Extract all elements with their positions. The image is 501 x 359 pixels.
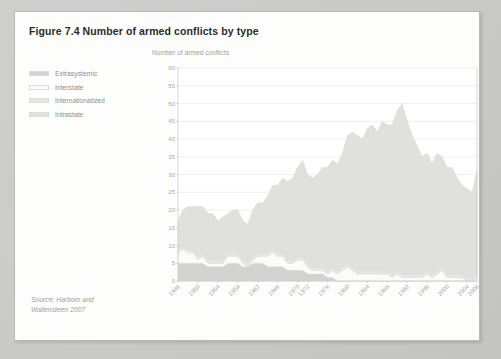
x-axis-tick-label: 1988 (377, 283, 391, 297)
x-axis-tick-label: 2000 (437, 283, 451, 297)
chart-plot-area: 0510152025303540455055601946195019541958… (162, 59, 483, 320)
source-line-2: Wallensteen 2007 (31, 305, 136, 315)
x-axis-tick-label: 1980 (337, 283, 351, 297)
x-axis-tick-label: 1984 (357, 283, 371, 297)
legend-swatch-icon (29, 71, 49, 76)
y-axis-tick-label: 45 (168, 118, 175, 124)
y-axis-tick-label: 25 (168, 189, 175, 195)
y-axis-title: Number of armed conflicts (152, 49, 229, 56)
legend-item[interactable]: Internationalized (29, 94, 149, 108)
chart-legend: ExtrasystemicInterstateInternationalized… (29, 67, 149, 121)
legend-item-label: Interstate (55, 84, 83, 91)
y-axis-tick-label: 60 (168, 65, 175, 71)
y-axis-tick-label: 5 (172, 260, 176, 266)
x-axis-tick-label: 1954 (207, 283, 221, 297)
legend-item-label: Internationalized (55, 97, 105, 104)
x-axis-tick-label: 1946 (168, 283, 182, 297)
legend-item[interactable]: Interstate (29, 81, 149, 95)
x-axis-tick-label: 1992 (397, 283, 411, 297)
stacked-area-chart: 0510152025303540455055601946195019541958… (162, 59, 483, 320)
legend-item-label: Extrasystemic (55, 70, 97, 77)
page-background: Figure 7.4 Number of armed conflicts by … (0, 0, 501, 359)
y-axis-tick-label: 30 (168, 172, 175, 178)
y-axis-tick-label: 0 (172, 278, 176, 284)
figure-card: Figure 7.4 Number of armed conflicts by … (14, 11, 480, 341)
page-title: Figure 7.4 Number of armed conflicts by … (29, 25, 259, 37)
legend-item[interactable]: Intrastate (29, 108, 149, 122)
y-axis-tick-label: 55 (168, 83, 175, 89)
y-axis-tick-label: 20 (168, 207, 175, 213)
y-axis-tick-label: 10 (168, 243, 175, 249)
legend-swatch-icon (29, 112, 49, 117)
legend-item[interactable]: Extrasystemic (29, 67, 149, 81)
y-axis-tick-label: 15 (168, 225, 175, 231)
source-line-1: Source: Harbom and (31, 295, 136, 305)
x-axis-tick-label: 1976 (317, 283, 331, 297)
x-axis-tick-label: 1972 (297, 283, 311, 297)
x-axis-tick-label: 1966 (267, 283, 281, 297)
legend-item-label: Intrastate (55, 111, 83, 118)
x-axis-tick-label: 2006 (467, 283, 481, 297)
x-axis-tick-label: 1950 (187, 283, 201, 297)
y-axis-tick-label: 35 (168, 154, 175, 160)
legend-swatch-icon (29, 98, 49, 103)
x-axis-tick-label: 1958 (227, 283, 241, 297)
source-note: Source: Harbom and Wallensteen 2007 (31, 295, 136, 314)
y-axis-tick-label: 40 (168, 136, 175, 142)
x-axis-tick-label: 1962 (247, 283, 261, 297)
legend-swatch-icon (29, 85, 49, 90)
x-axis-tick-label: 1996 (417, 283, 431, 297)
y-axis-tick-label: 50 (168, 101, 175, 107)
